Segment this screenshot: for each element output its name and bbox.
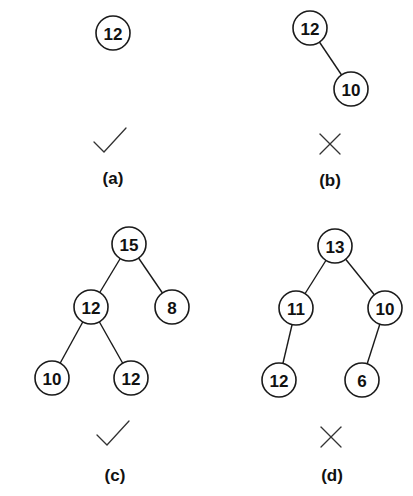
node-label: 10 bbox=[43, 370, 62, 389]
tree-node-c3: 10 bbox=[35, 361, 69, 395]
check-icon bbox=[97, 421, 129, 445]
panel-caption-d: (d) bbox=[321, 466, 343, 485]
tree-node-b1: 10 bbox=[334, 72, 368, 106]
panel-caption-c: (c) bbox=[105, 466, 126, 485]
node-label: 10 bbox=[342, 81, 361, 100]
panel-caption-a: (a) bbox=[103, 169, 124, 188]
node-label: 10 bbox=[376, 300, 395, 319]
cross-icon bbox=[321, 427, 341, 447]
tree-node-d2: 10 bbox=[368, 291, 402, 325]
node-label: 12 bbox=[301, 20, 320, 39]
tree-node-c1: 12 bbox=[74, 290, 108, 324]
tree-node-d0: 13 bbox=[318, 229, 352, 263]
tree-node-c0: 15 bbox=[112, 227, 146, 261]
captions-layer: (a)(b)(c)(d) bbox=[103, 169, 343, 485]
edges-layer bbox=[52, 28, 385, 380]
check-icon bbox=[94, 128, 126, 152]
node-label: 6 bbox=[357, 372, 366, 391]
cross-icon bbox=[320, 134, 340, 154]
node-label: 8 bbox=[167, 299, 176, 318]
tree-node-c2: 8 bbox=[155, 290, 189, 324]
node-label: 12 bbox=[82, 299, 101, 318]
tree-node-c4: 12 bbox=[114, 361, 148, 395]
tree-node-d1: 11 bbox=[279, 291, 313, 325]
node-label: 11 bbox=[287, 300, 305, 319]
heap-examples-diagram: 121210151281012131110126 (a)(b)(c)(d) bbox=[0, 0, 413, 496]
node-label: 13 bbox=[326, 238, 345, 257]
node-label: 12 bbox=[270, 372, 289, 391]
node-label: 12 bbox=[122, 370, 141, 389]
nodes-layer: 121210151281012131110126 bbox=[35, 11, 402, 397]
tree-node-d4: 6 bbox=[345, 363, 379, 397]
tree-node-b0: 12 bbox=[293, 11, 327, 45]
node-label: 12 bbox=[104, 25, 123, 44]
tree-node-a0: 12 bbox=[96, 16, 130, 50]
tree-node-d3: 12 bbox=[262, 363, 296, 397]
marks-layer bbox=[94, 128, 341, 447]
panel-caption-b: (b) bbox=[319, 171, 341, 190]
node-label: 15 bbox=[120, 236, 139, 255]
